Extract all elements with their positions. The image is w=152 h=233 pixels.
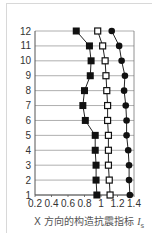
x-axis-label-text: X 方向的构造抗震指标 — [34, 216, 137, 227]
y-tick-label: 3 — [25, 160, 31, 171]
marker-open-square — [105, 117, 111, 123]
marker-filled-square — [82, 117, 89, 124]
marker-open-square — [105, 162, 111, 168]
marker-open-square — [106, 177, 112, 183]
x-tick-label: 0.4 — [45, 198, 59, 209]
x-tick-label: 1 — [98, 198, 104, 209]
marker-filled-circle — [127, 192, 134, 199]
marker-open-square — [95, 28, 101, 34]
y-tick-label: 10 — [20, 55, 32, 66]
marker-filled-square — [93, 192, 100, 199]
y-tick-label: 4 — [25, 145, 31, 156]
x-axis-label: X 方向的构造抗震指标 Is — [34, 213, 144, 230]
marker-open-square — [104, 88, 110, 94]
y-tick-label: 6 — [25, 115, 31, 126]
marker-filled-circle — [108, 28, 115, 35]
marker-filled-square — [93, 162, 100, 169]
y-tick-label: 9 — [25, 70, 31, 81]
marker-filled-circle — [116, 43, 123, 50]
x-tick-label: 0.6 — [61, 198, 75, 209]
marker-open-square — [105, 147, 111, 153]
marker-filled-square — [87, 72, 94, 79]
y-tick-label: 2 — [25, 175, 31, 186]
marker-open-square — [100, 43, 106, 49]
marker-filled-circle — [118, 58, 125, 65]
x-axis-subscript: s — [141, 222, 145, 230]
marker-open-square — [105, 103, 111, 109]
marker-filled-square — [81, 87, 88, 94]
marker-filled-circle — [123, 132, 130, 139]
marker-filled-square — [86, 42, 93, 49]
marker-filled-square — [92, 147, 99, 154]
chart-plot: 1234567891011120.20.40.60.811.21.4 — [0, 0, 152, 233]
x-tick-label: 1.4 — [127, 198, 141, 209]
marker-filled-circle — [126, 177, 133, 184]
y-tick-label: 11 — [21, 40, 32, 51]
x-tick-label: 1.2 — [111, 198, 125, 209]
y-tick-label: 7 — [25, 100, 31, 111]
marker-filled-square — [79, 102, 86, 109]
marker-open-square — [102, 58, 108, 64]
marker-open-square — [103, 73, 109, 79]
marker-open-square — [105, 132, 111, 138]
marker-filled-square — [73, 28, 80, 35]
series-line-open-square — [98, 31, 110, 195]
y-tick-label: 5 — [25, 130, 31, 141]
marker-filled-square — [93, 177, 100, 184]
marker-filled-circle — [122, 72, 129, 79]
marker-filled-circle — [123, 117, 130, 124]
marker-open-square — [107, 192, 113, 198]
marker-filled-circle — [125, 147, 132, 154]
marker-filled-circle — [122, 102, 129, 109]
x-tick-label: 0.8 — [78, 198, 92, 209]
marker-filled-circle — [126, 162, 133, 169]
marker-filled-circle — [121, 87, 128, 94]
marker-filled-square — [88, 57, 95, 64]
y-tick-label: 8 — [25, 85, 31, 96]
x-tick-label: 0.2 — [28, 198, 42, 209]
marker-filled-square — [92, 132, 99, 139]
y-tick-label: 12 — [20, 26, 32, 37]
series-line-filled-circle — [112, 31, 130, 195]
series-line-filled-square — [76, 31, 97, 195]
